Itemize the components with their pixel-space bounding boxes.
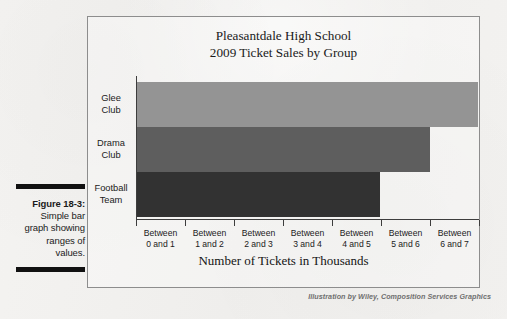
x-axis-tick-label-line: 6 and 7 xyxy=(430,239,480,250)
x-axis-tick-label-line: 4 and 5 xyxy=(332,239,382,250)
x-axis-line xyxy=(136,219,479,220)
x-axis-tick-label-line: Between xyxy=(234,228,284,239)
x-axis-tick-label: Between5 and 6 xyxy=(381,228,431,250)
x-axis-tick xyxy=(381,220,382,226)
x-axis-tick-label-line: Between xyxy=(283,228,333,239)
bar-drama-club xyxy=(137,127,430,172)
x-axis-tick-label: Between4 and 5 xyxy=(332,228,382,250)
x-axis-tick-label-line: Between xyxy=(430,228,480,239)
category-label-line: Team xyxy=(100,195,123,206)
x-axis-title: Number of Tickets in Thousands xyxy=(88,253,479,269)
category-label-line: Club xyxy=(101,150,120,161)
x-axis-tick xyxy=(136,220,137,226)
bar-football-team xyxy=(137,172,380,217)
category-label-glee-club: Glee Club xyxy=(88,82,134,127)
x-axis-tick xyxy=(332,220,333,226)
bar-glee-club xyxy=(137,82,478,127)
category-label-line: Glee xyxy=(101,93,121,104)
illustration-credit: Illustration by Wiley, Composition Servi… xyxy=(308,292,491,301)
caption-rule-bottom xyxy=(16,267,85,272)
x-axis-tick xyxy=(430,220,431,226)
category-label-line: Drama xyxy=(97,138,125,149)
caption-text: Figure 18-3: Simple bar graph showing ra… xyxy=(16,198,85,259)
x-axis-tick xyxy=(185,220,186,226)
x-axis-tick-label: Between1 and 2 xyxy=(185,228,235,250)
category-labels: Glee Club Drama Club Football Team xyxy=(88,82,134,217)
x-axis-tick xyxy=(234,220,235,226)
category-label-line: Club xyxy=(101,105,120,116)
x-axis-tick-label: Between3 and 4 xyxy=(283,228,333,250)
category-label-line: Football xyxy=(94,183,127,194)
x-axis-tick-label-line: 5 and 6 xyxy=(381,239,431,250)
figure-caption: Figure 18-3: Simple bar graph showing ra… xyxy=(16,184,85,272)
x-axis-tick-label: Between6 and 7 xyxy=(430,228,480,250)
caption-description: Simple bar graph showing ranges of value… xyxy=(25,210,86,258)
figure-frame: Pleasantdale High School 2009 Ticket Sal… xyxy=(87,16,480,288)
x-axis-tick xyxy=(479,220,480,226)
x-axis-tick-label-line: Between xyxy=(332,228,382,239)
x-axis-tick-label-line: 1 and 2 xyxy=(185,239,235,250)
x-axis-tick-label-line: Between xyxy=(381,228,431,239)
caption-rule-top xyxy=(16,184,85,189)
x-axis-tick-label-line: 3 and 4 xyxy=(283,239,333,250)
plot-area: Glee Club Drama Club Football Team Betwe… xyxy=(88,17,481,289)
x-axis-tick-label-line: 2 and 3 xyxy=(234,239,284,250)
bar-series xyxy=(137,82,478,217)
x-axis-tick-label-line: Between xyxy=(136,228,186,239)
x-axis-tick-label: Between2 and 3 xyxy=(234,228,284,250)
x-axis-tick-label-line: Between xyxy=(185,228,235,239)
x-axis-tick-label: Between0 and 1 xyxy=(136,228,186,250)
x-axis-tick-label-line: 0 and 1 xyxy=(136,239,186,250)
category-label-drama-club: Drama Club xyxy=(88,127,134,172)
category-label-football-team: Football Team xyxy=(88,172,134,217)
x-axis-tick xyxy=(283,220,284,226)
figure-number: Figure 18-3: xyxy=(16,198,85,210)
